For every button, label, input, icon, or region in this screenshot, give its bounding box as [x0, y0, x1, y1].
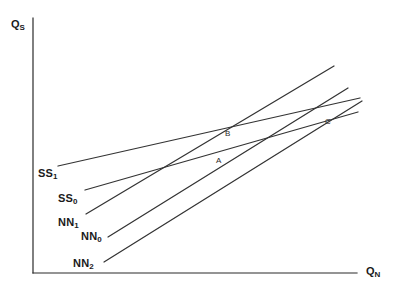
curve-label-nn0-text: NN: [81, 230, 97, 242]
curve-label-nn2-subscript: 2: [89, 262, 94, 271]
curve-label-nn0: NN0: [81, 231, 102, 242]
curve-label-ss0-text: SS: [58, 192, 73, 204]
economics-line-diagram: QS QN SS1 SS0 NN1 NN0 NN2 A B C: [0, 0, 403, 295]
curve-nn2: [104, 101, 362, 262]
y-axis-label-subscript: S: [20, 23, 25, 32]
point-label-b: B: [225, 130, 230, 138]
x-axis-label: QN: [366, 266, 380, 277]
curve-label-nn1-text: NN: [58, 216, 74, 228]
x-axis-label-subscript: N: [375, 270, 381, 279]
x-axis-label-text: Q: [366, 265, 375, 277]
diagram-canvas: [0, 0, 403, 295]
curve-label-ss1-text: SS: [38, 167, 53, 179]
curve-label-nn0-subscript: 0: [97, 235, 102, 244]
curve-label-nn1-subscript: 1: [74, 221, 79, 230]
y-axis-label: QS: [11, 19, 25, 30]
curve-label-nn1: NN1: [58, 217, 79, 228]
curve-label-ss1: SS1: [38, 168, 58, 179]
y-axis-label-text: Q: [11, 18, 20, 30]
curve-label-ss1-subscript: 1: [53, 172, 58, 181]
curve-nn1: [86, 66, 334, 214]
curve-label-nn2: NN2: [73, 258, 94, 269]
curve-label-ss0: SS0: [58, 193, 78, 204]
curve-label-nn2-text: NN: [73, 257, 89, 269]
curve-label-ss0-subscript: 0: [73, 197, 78, 206]
curve-nn0: [108, 88, 348, 237]
point-label-c: C: [325, 118, 331, 126]
point-label-a: A: [216, 157, 221, 165]
